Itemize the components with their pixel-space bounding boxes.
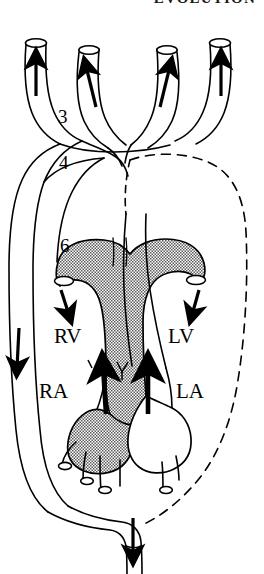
- pulmonary-right-arrow: [192, 290, 199, 315]
- label-left-atrium: LA: [176, 379, 204, 404]
- vessel-trunk-3: [131, 46, 179, 148]
- vessel-trunk-1: [25, 39, 82, 144]
- aortic-arch-heart-figure: [0, 0, 264, 574]
- carotid-arrow-3: [160, 66, 170, 107]
- pulmonary-left-arrow: [61, 290, 69, 315]
- label-right-ventricle: RV: [54, 324, 82, 349]
- label-arch-4: 4: [59, 152, 69, 174]
- label-right-atrium: RA: [39, 379, 68, 404]
- label-left-ventricle: LV: [168, 324, 194, 349]
- carotid-arrow-2: [86, 66, 96, 107]
- systemic-descending-arrow: [17, 328, 19, 368]
- label-arch-6: 6: [60, 235, 70, 257]
- label-arch-3: 3: [58, 106, 68, 128]
- vessel-trunk-2: [77, 46, 126, 148]
- right-atrium-to-ventricle-arrow: [103, 366, 106, 414]
